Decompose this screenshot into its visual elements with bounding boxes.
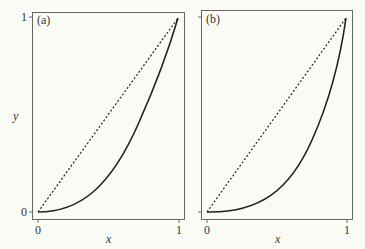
panel-a-diagonal <box>38 18 178 212</box>
panel-a-xlabel: x <box>106 233 111 245</box>
panel-b-label: (b) <box>206 13 220 25</box>
panel-b-xtick-0: 0 <box>204 224 210 236</box>
chart-canvas <box>0 0 365 249</box>
panel-b-xlabel: x <box>275 233 280 245</box>
panel-a-ytick-1: 1 <box>21 11 27 23</box>
panel-a-ytick-0: 0 <box>21 206 27 218</box>
panel-b-curve <box>207 18 346 212</box>
panel-a-xtick-0: 0 <box>35 224 41 236</box>
panel-b-diagonal <box>207 18 346 212</box>
panel-b-xtick-1: 1 <box>344 224 350 236</box>
panel-a-ylabel: y <box>13 110 18 122</box>
panel-a-xtick-1: 1 <box>176 224 182 236</box>
panel-a-label: (a) <box>37 14 50 26</box>
